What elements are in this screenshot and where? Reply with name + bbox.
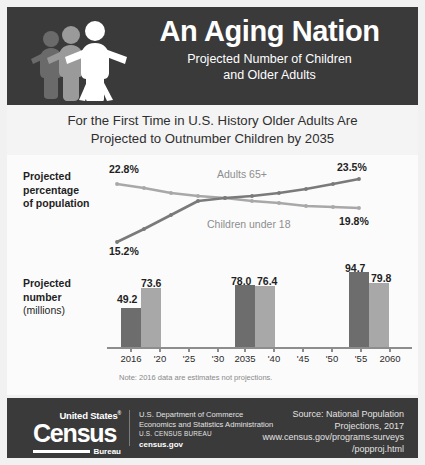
- axis-tick-2035: [244, 348, 246, 352]
- census-bureau-logo: United States® Census Bureau: [33, 408, 121, 456]
- bar-chart-axis: [107, 347, 412, 349]
- logo-bureau-row: Bureau: [33, 447, 121, 456]
- axis-tick-2055: [360, 348, 362, 352]
- bar-chart-label-line1: Projected: [23, 277, 71, 289]
- axis-tick-2030: [217, 348, 219, 352]
- axis-tick-2060: [389, 348, 391, 352]
- population-number-bar-chart: 49.2 73.6 78.0 76.4 94.7 79.8: [107, 267, 412, 377]
- axis-label-2050: '50: [326, 353, 338, 364]
- axis-tick-2040: [273, 348, 275, 352]
- line-chart-label: Projected percentage of population: [23, 170, 118, 211]
- subtitle-line1: For the First Time in U.S. History Older…: [67, 112, 357, 130]
- logo-bureau-word: Bureau: [93, 447, 121, 456]
- source-info: Source: National Population Projections,…: [219, 409, 404, 455]
- source-line1: Source: National Population: [219, 409, 404, 421]
- bar-2060-older-adults: [349, 272, 369, 347]
- bar-2016-older-adults-value: 49.2: [117, 293, 137, 305]
- bar-2035-older-adults-value: 78.0: [231, 275, 251, 287]
- axis-label-2060: 2060: [379, 353, 400, 364]
- bar-2035-children: [255, 286, 275, 347]
- adults-65-plus-markers: [115, 177, 361, 244]
- line-chart-label-line3: of population: [23, 197, 89, 209]
- bar-chart-label: Projected number (millions): [23, 277, 118, 318]
- bar-2060-children: [369, 283, 389, 347]
- children-end-value: 19.8%: [339, 215, 369, 227]
- children-start-value: 22.8%: [109, 163, 139, 175]
- axis-label-2040: '40: [268, 353, 280, 364]
- axis-label-2035: 2035: [234, 353, 255, 364]
- charts-area: Projected percentage of population: [7, 155, 418, 395]
- axis-label-2020: '20: [154, 353, 166, 364]
- line-chart-label-line1: Projected: [23, 170, 71, 182]
- source-line4[interactable]: /popproj.html: [219, 444, 404, 456]
- bar-chart-label-line2: number: [23, 291, 62, 303]
- header-subtitle: Projected Number of Children and Older A…: [127, 51, 412, 83]
- axis-tick-2050: [331, 348, 333, 352]
- logo-census-word: Census: [33, 421, 121, 446]
- adults-start-value: 15.2%: [109, 245, 139, 257]
- adults-65-plus-series-label: Adults 65+: [217, 168, 267, 180]
- chart-note: Note: 2016 data are estimates not projec…: [119, 373, 272, 382]
- page-title: An Aging Nation: [127, 14, 412, 48]
- bar-2035-older-adults: [235, 285, 255, 347]
- subtitle-text: For the First Time in U.S. History Older…: [67, 112, 357, 148]
- axis-tick-2020: [159, 348, 161, 352]
- axis-tick-2016: [130, 348, 132, 352]
- axis-tick-2045: [302, 348, 304, 352]
- header-subtitle-line1: Projected Number of Children: [127, 51, 412, 67]
- logo-registered-mark: ®: [118, 410, 121, 416]
- bar-2016-children-value: 73.6: [141, 277, 161, 289]
- axis-label-2030: '30: [212, 353, 224, 364]
- source-line3[interactable]: www.census.gov/programs-surveys: [219, 432, 404, 444]
- footer-divider: [129, 410, 130, 446]
- children-under-18-series-label: Children under 18: [207, 218, 290, 230]
- three-people-icon: [29, 15, 133, 101]
- header-banner: An Aging Nation Projected Number of Chil…: [7, 7, 418, 105]
- bar-2060-older-adults-value: 94.7: [345, 262, 365, 274]
- infographic-poster: An Aging Nation Projected Number of Chil…: [0, 0, 425, 465]
- axis-label-2016: 2016: [120, 353, 141, 364]
- population-percentage-line-chart: 22.8% 15.2% 23.5% 19.8% Adults 65+ Child…: [107, 160, 412, 260]
- axis-tick-2025: [188, 348, 190, 352]
- subtitle-line2: Projected to Outnumber Children by 2035: [67, 130, 357, 148]
- subtitle-band: For the First Time in U.S. History Older…: [7, 105, 418, 155]
- bar-2016-children: [141, 288, 161, 347]
- adults-end-value: 23.5%: [337, 161, 367, 173]
- bar-chart-label-line3: (millions): [23, 304, 65, 316]
- axis-label-2055: '55: [355, 353, 367, 364]
- axis-label-2025: '25: [183, 353, 195, 364]
- header-subtitle-line2: and Older Adults: [127, 67, 412, 83]
- header-text-block: An Aging Nation Projected Number of Chil…: [127, 14, 412, 83]
- footer-banner: United States® Census Bureau U.S. Depart…: [7, 398, 418, 458]
- line-chart-label-line2: percentage: [23, 184, 79, 196]
- axis-label-2045: '45: [297, 353, 309, 364]
- source-line2: Projections, 2017: [219, 421, 404, 433]
- bar-2016-older-adults: [121, 308, 141, 347]
- bar-2035-children-value: 76.4: [257, 275, 277, 287]
- bar-2060-children-value: 79.8: [371, 272, 391, 284]
- logo-rule: [33, 450, 90, 453]
- bar-chart-plot: 49.2 73.6 78.0 76.4 94.7 79.8: [107, 267, 412, 347]
